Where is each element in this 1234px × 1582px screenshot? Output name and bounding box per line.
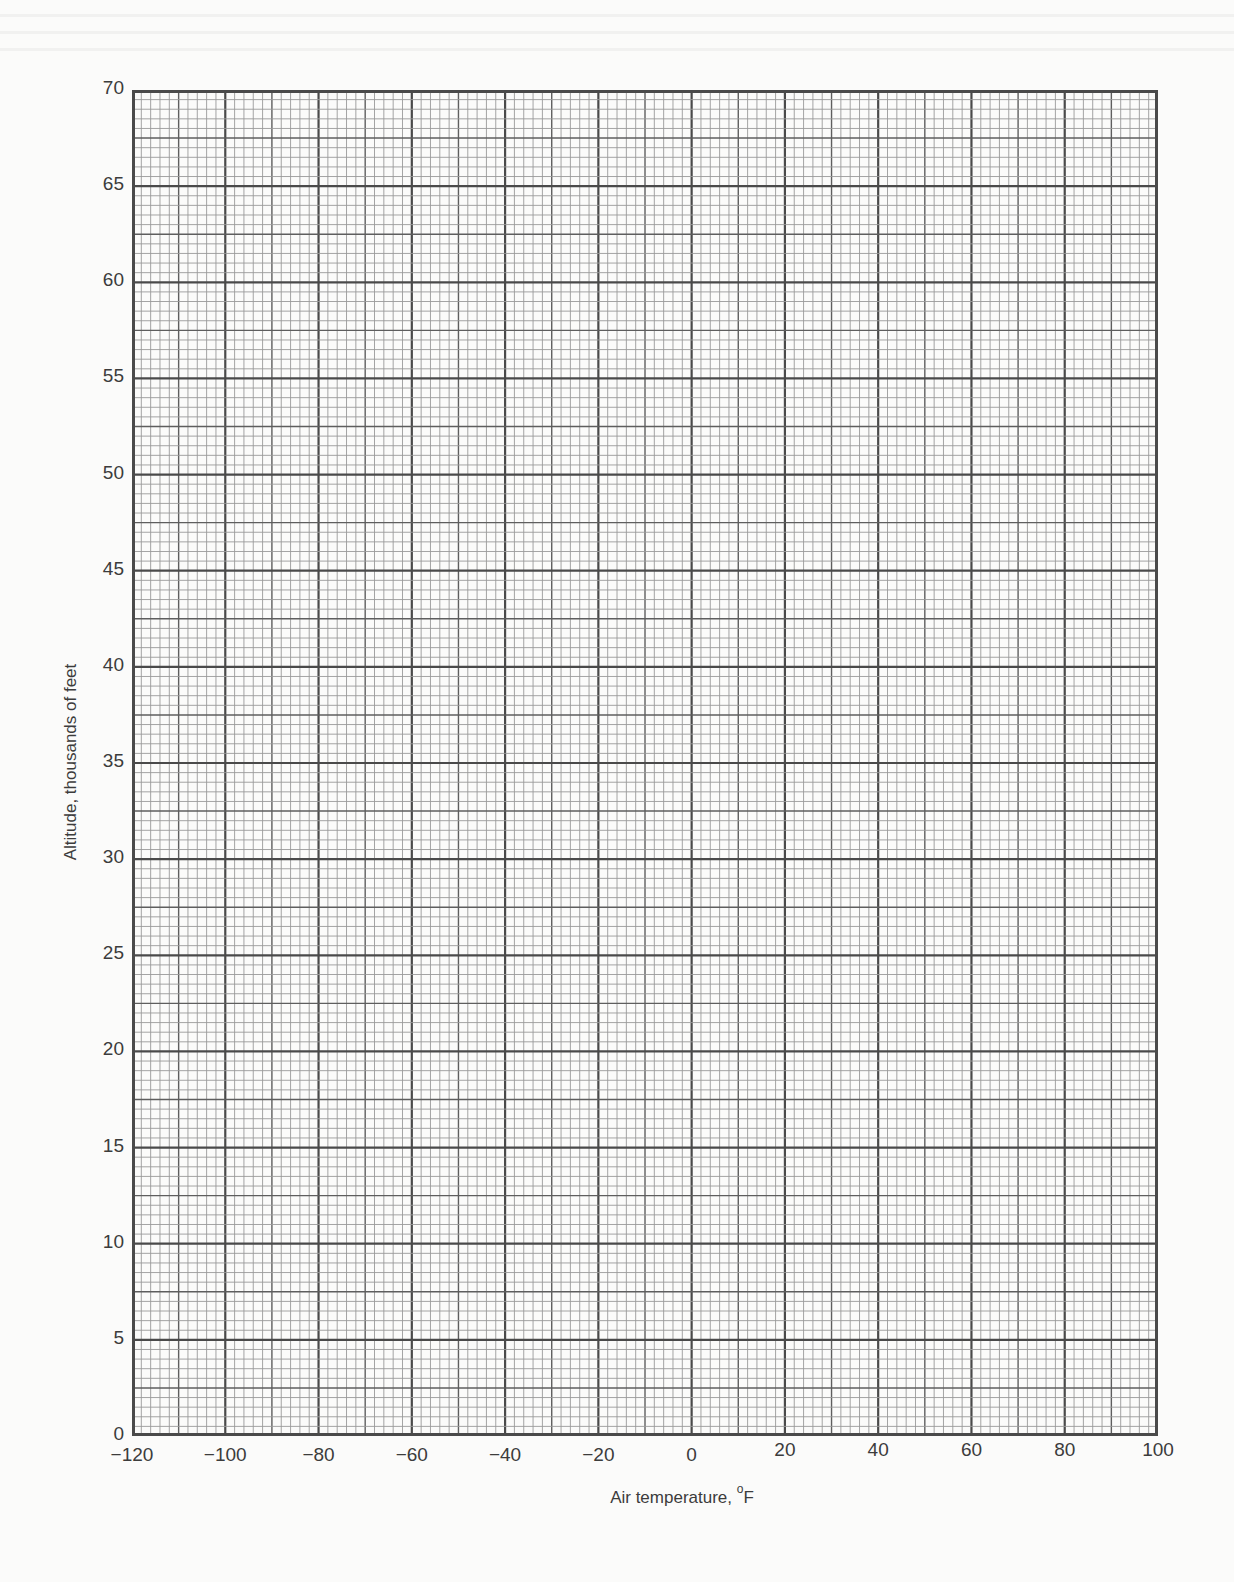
chart-plot-area [132,90,1158,1436]
degree-symbol: o [737,1482,744,1496]
x-tick-label: −120 [92,1445,172,1465]
x-axis-unit: F [743,1488,753,1507]
x-axis-label-text: Air temperature, [610,1488,732,1507]
x-tick-label: −60 [372,1445,452,1465]
y-tick-label: 35 [84,751,124,771]
y-tick-label: 40 [84,655,124,675]
y-tick-label: 30 [84,847,124,867]
y-tick-label: 65 [84,174,124,194]
y-tick-label: 55 [84,366,124,386]
y-tick-label: 45 [84,559,124,579]
y-tick-label: 5 [84,1328,124,1348]
x-tick-label: 100 [1118,1440,1198,1460]
graph-paper-grid [132,90,1158,1436]
y-tick-label: 10 [84,1232,124,1252]
x-tick-label: −20 [558,1445,638,1465]
y-tick-label: 0 [84,1424,124,1444]
x-tick-label: 0 [652,1445,732,1465]
y-tick-label: 20 [84,1039,124,1059]
y-tick-label: 60 [84,270,124,290]
y-tick-label: 50 [84,463,124,483]
x-axis-label: Air temperature, oF [610,1485,754,1508]
x-tick-label: −40 [465,1445,545,1465]
y-axis-label: Altitude, thousands of feet [61,664,81,861]
page-bleed-through [0,0,1234,80]
x-tick-label: −80 [279,1445,359,1465]
x-tick-label: 80 [1025,1440,1105,1460]
y-tick-label: 70 [84,78,124,98]
x-tick-label: 60 [931,1440,1011,1460]
x-tick-label: 40 [838,1440,918,1460]
x-tick-label: 20 [745,1440,825,1460]
y-tick-label: 25 [84,943,124,963]
x-tick-label: −100 [185,1445,265,1465]
y-tick-label: 15 [84,1136,124,1156]
